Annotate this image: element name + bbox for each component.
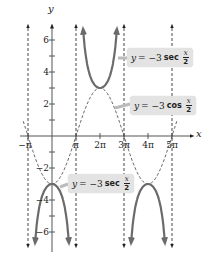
graph-canvas bbox=[0, 0, 213, 257]
label-lower-secant: y = −3 sec x2 bbox=[68, 174, 134, 193]
x-tick-label: 4π bbox=[142, 140, 154, 150]
callout-pointer-cos bbox=[115, 104, 130, 108]
fraction-num: x bbox=[124, 175, 130, 184]
label-var: y bbox=[131, 53, 136, 63]
label-cosine: y = −3 cos x2 bbox=[130, 96, 196, 115]
y-tick-label: −2 bbox=[36, 163, 49, 173]
y-tick-label: −6 bbox=[36, 227, 49, 237]
fraction-den: 2 bbox=[124, 184, 129, 192]
fraction-den: 2 bbox=[186, 106, 191, 114]
secant-branch bbox=[131, 184, 165, 242]
fraction-num: x bbox=[183, 49, 189, 58]
label-upper-secant: y = −3 sec x2 bbox=[127, 48, 193, 67]
label-fraction: x2 bbox=[186, 97, 192, 114]
label-fraction: x2 bbox=[183, 49, 189, 66]
x-axis-label: x bbox=[196, 128, 202, 139]
secant-branch bbox=[83, 30, 117, 88]
x-tick-label: π bbox=[73, 140, 79, 150]
x-tick-label: 5π bbox=[166, 140, 178, 150]
y-tick-label: 6 bbox=[43, 35, 49, 45]
label-eq: = −3 bbox=[138, 53, 162, 63]
label-fraction: x2 bbox=[124, 175, 130, 192]
label-var: y bbox=[134, 101, 139, 111]
label-eq: = −3 bbox=[79, 179, 103, 189]
fraction-num: x bbox=[186, 97, 192, 106]
x-tick-label: 2π bbox=[94, 140, 106, 150]
callout-pointer-lower bbox=[60, 184, 68, 187]
label-fn: cos bbox=[167, 101, 182, 110]
label-eq: = −3 bbox=[141, 101, 165, 111]
fraction-den: 2 bbox=[183, 58, 188, 66]
y-tick-label: 2 bbox=[43, 99, 49, 109]
label-fn: sec bbox=[105, 179, 120, 188]
y-tick-label: −4 bbox=[36, 195, 49, 205]
y-axis-label: y bbox=[48, 3, 54, 14]
label-var: y bbox=[72, 179, 77, 189]
y-tick-label: 4 bbox=[43, 67, 49, 77]
x-tick-label: 3π bbox=[118, 140, 130, 150]
x-tick-label: −π bbox=[18, 140, 31, 150]
label-fn: sec bbox=[164, 53, 179, 62]
